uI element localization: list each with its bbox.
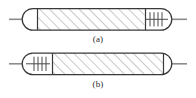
panel-a-caption: (a)	[0, 34, 196, 44]
panel-b-assembly	[9, 52, 187, 77]
panel-a-hatch-region	[38, 7, 145, 32]
panel-b-caption: (b)	[0, 79, 196, 89]
figure-container: (a) (b)	[0, 0, 196, 98]
panel-a-assembly	[9, 7, 187, 32]
panel-b-hatch-region	[53, 52, 163, 77]
